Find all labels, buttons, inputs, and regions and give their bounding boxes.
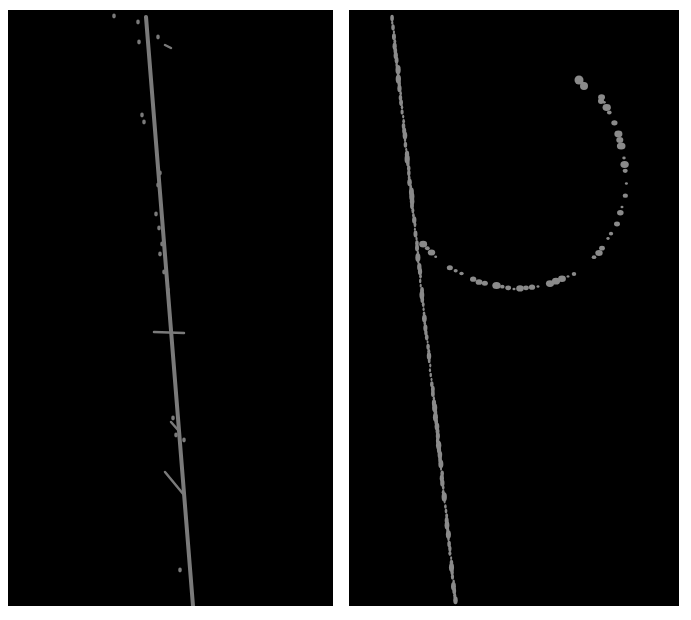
right-microscopy-panel [349, 10, 679, 606]
left-microscopy-panel [8, 10, 333, 606]
left-filament-image [8, 10, 333, 606]
right-filament-image [349, 10, 679, 606]
